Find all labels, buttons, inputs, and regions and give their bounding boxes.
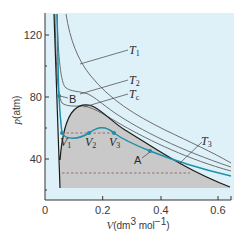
- y-tick-label-120: 120: [24, 29, 42, 41]
- x-tick-label-0: 0: [42, 204, 48, 216]
- pv-isotherm-chart: T1 T2 Tc T3 B A V1 V2 V3 120 80 40 0 0.2…: [0, 0, 247, 246]
- y-tick-label-80: 80: [30, 91, 42, 103]
- y-axis-label: p(atm): [10, 96, 22, 126]
- x-axis-label: V(dm3 mol−1): [106, 216, 169, 231]
- x-tick-label-0.6: 0.6: [210, 204, 225, 216]
- x-tick-label-0.4: 0.4: [153, 204, 168, 216]
- y-tick-label-40: 40: [30, 153, 42, 165]
- x-tick-label-0.2: 0.2: [95, 204, 110, 216]
- label-A: A: [134, 154, 142, 166]
- label-B: B: [69, 93, 76, 105]
